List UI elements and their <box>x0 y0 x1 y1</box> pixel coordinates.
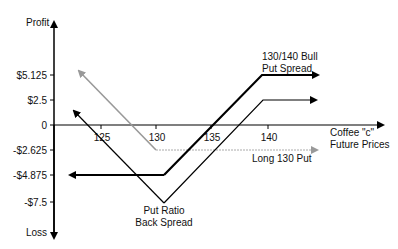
y-tick-label: -$7.5 <box>24 197 47 208</box>
long-put-left-arrow <box>79 71 156 150</box>
x-tick-label: 140 <box>261 132 278 143</box>
long-put-label: Long 130 Put <box>252 153 312 164</box>
profit-label: Profit <box>26 17 50 28</box>
payoff-chart: $5.125 $2.5 0 -$2.625 -$4.875 -$7.5 125 … <box>0 0 398 249</box>
bull-label-line1: 130/140 Bull <box>262 51 318 62</box>
loss-label: Loss <box>26 227 47 238</box>
y-tick-label: 0 <box>41 120 47 131</box>
x-axis-title-line1: Coffee "c" <box>330 127 375 138</box>
bull-label-line2: Put Spread <box>262 63 312 74</box>
y-tick-label: -$4.875 <box>13 170 47 181</box>
ratio-label-line1: Put Ratio <box>143 205 185 216</box>
x-tick-label: 130 <box>149 132 166 143</box>
y-tick-label: $5.125 <box>16 70 47 81</box>
ratio-label-line2: Back Spread <box>135 217 192 228</box>
x-axis-title-line2: Future Prices <box>330 139 389 150</box>
x-tick-label: 135 <box>204 132 221 143</box>
y-tick-label: $2.5 <box>28 95 48 106</box>
y-tick-label: -$2.625 <box>13 145 47 156</box>
